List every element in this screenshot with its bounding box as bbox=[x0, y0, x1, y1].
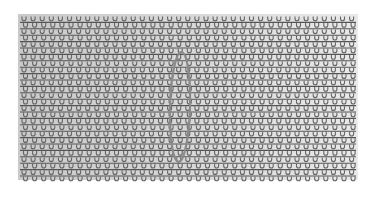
stitch-texture-image bbox=[0, 0, 375, 207]
